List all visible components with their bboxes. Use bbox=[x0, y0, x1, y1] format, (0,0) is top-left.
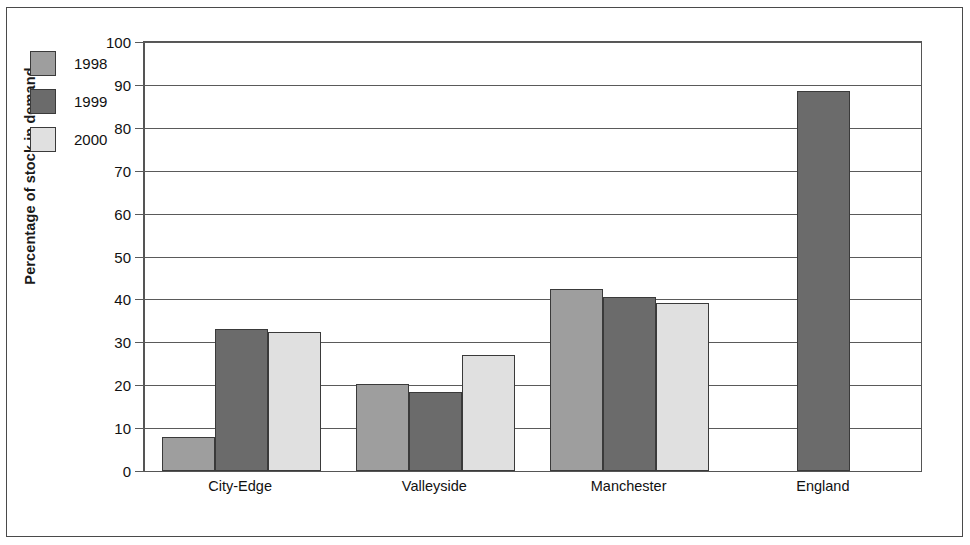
y-axis-tick-label: 80 bbox=[114, 119, 131, 136]
legend-item-1998: 1998 bbox=[30, 44, 107, 82]
x-axis-label-city-edge: City-Edge bbox=[208, 478, 272, 494]
y-axis-tick-label: 60 bbox=[114, 205, 131, 222]
y-axis-tick bbox=[135, 299, 144, 300]
legend-item-2000: 2000 bbox=[30, 120, 107, 158]
legend-swatch-1998 bbox=[30, 51, 56, 76]
y-axis-tick bbox=[135, 85, 144, 86]
y-axis-tick bbox=[135, 257, 144, 258]
legend-item-1999: 1999 bbox=[30, 82, 107, 120]
y-axis-tick bbox=[135, 171, 144, 172]
plot-area: 0102030405060708090100 bbox=[143, 41, 922, 472]
y-axis-tick bbox=[135, 214, 144, 215]
bar-city-edge-1998 bbox=[162, 437, 215, 471]
bar-city-edge-1999 bbox=[215, 329, 268, 471]
y-axis-tick bbox=[135, 128, 144, 129]
bar-valleyside-2000 bbox=[462, 355, 515, 471]
y-axis-tick-label: 0 bbox=[123, 463, 131, 480]
legend-label-1999: 1999 bbox=[74, 93, 107, 110]
bars-layer bbox=[144, 42, 921, 471]
x-axis-label-valleyside: Valleyside bbox=[402, 478, 467, 494]
chart-figure: Percentage of stock in demand 0102030405… bbox=[0, 0, 970, 545]
y-axis-tick-label: 10 bbox=[114, 420, 131, 437]
legend-label-1998: 1998 bbox=[74, 55, 107, 72]
bar-manchester-2000 bbox=[656, 303, 709, 471]
bar-manchester-1999 bbox=[603, 297, 656, 471]
bar-valleyside-1998 bbox=[356, 384, 409, 471]
legend: 199819992000 bbox=[30, 44, 107, 158]
x-axis-label-manchester: Manchester bbox=[591, 478, 667, 494]
y-axis-tick bbox=[135, 471, 144, 472]
y-axis-tick bbox=[135, 428, 144, 429]
bar-manchester-1998 bbox=[550, 289, 603, 471]
y-axis-tick-label: 100 bbox=[106, 34, 131, 51]
y-axis-tick bbox=[135, 42, 144, 43]
y-axis-tick-label: 90 bbox=[114, 76, 131, 93]
y-axis-tick-label: 40 bbox=[114, 291, 131, 308]
x-axis-category-labels: City-EdgeValleysideManchesterEngland bbox=[143, 478, 922, 508]
bar-valleyside-1999 bbox=[409, 392, 462, 471]
bar-england-1999 bbox=[797, 91, 850, 471]
legend-swatch-2000 bbox=[30, 127, 56, 152]
y-axis-tick-label: 30 bbox=[114, 334, 131, 351]
bar-city-edge-2000 bbox=[268, 332, 321, 471]
y-axis-tick-label: 50 bbox=[114, 248, 131, 265]
y-axis-tick bbox=[135, 385, 144, 386]
y-axis-tick-label: 70 bbox=[114, 162, 131, 179]
y-axis-tick bbox=[135, 342, 144, 343]
legend-swatch-1999 bbox=[30, 89, 56, 114]
x-axis-label-england: England bbox=[796, 478, 849, 494]
legend-label-2000: 2000 bbox=[74, 131, 107, 148]
y-axis-tick-label: 20 bbox=[114, 377, 131, 394]
